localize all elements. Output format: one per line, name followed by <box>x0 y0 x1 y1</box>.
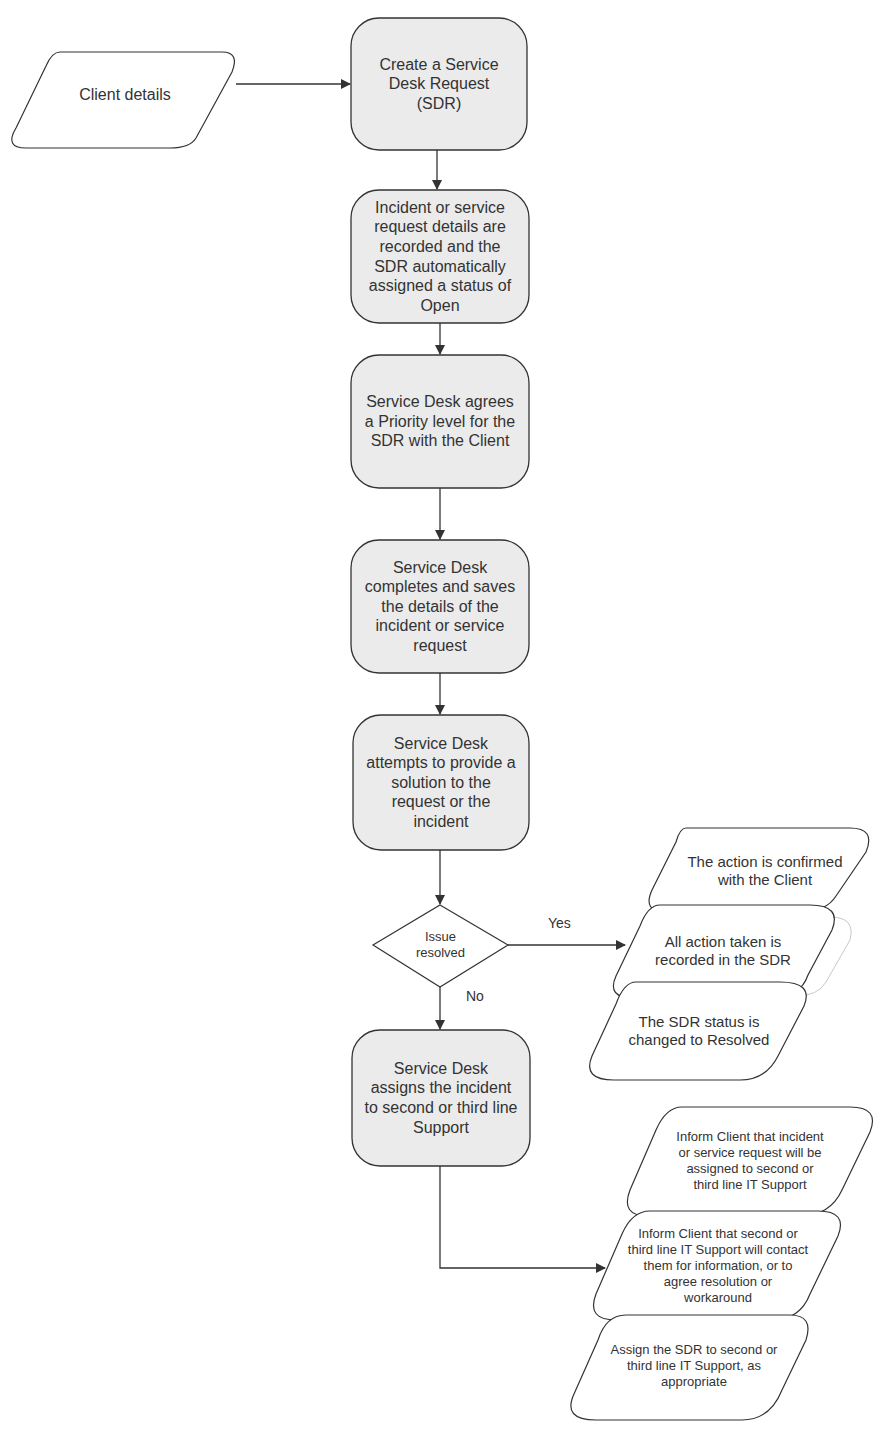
create-sdr-label: Create a Service Desk Request (SDR) <box>351 18 527 150</box>
inform-contact-label: Inform Client that second or third line … <box>598 1222 838 1310</box>
client-details-label: Client details <box>30 70 220 120</box>
assign-support-label: Service Desk assigns the incident to sec… <box>352 1030 530 1166</box>
attempt-solution-label: Service Desk attempts to provide a solut… <box>353 715 529 850</box>
edge-label-yes: Yes <box>548 915 571 931</box>
record-action-label: All action taken is recorded in the SDR <box>618 928 828 974</box>
inform-assigned-label: Inform Client that incident or service r… <box>630 1124 870 1198</box>
status-resolved-label: The SDR status is changed to Resolved <box>594 1008 804 1054</box>
complete-save-label: Service Desk completes and saves the det… <box>351 540 529 673</box>
record-details-label: Incident or service request details are … <box>351 190 529 323</box>
assign-sdr-label: Assign the SDR to second or third line I… <box>576 1336 812 1396</box>
agree-priority-label: Service Desk agrees a Priority level for… <box>351 355 529 488</box>
issue-resolved-label: Issue resolved <box>383 920 498 970</box>
edge-label-no: No <box>466 988 484 1004</box>
edge-assign-to-inform <box>440 1166 605 1268</box>
confirm-client-label: The action is confirmed with the Client <box>650 848 880 894</box>
